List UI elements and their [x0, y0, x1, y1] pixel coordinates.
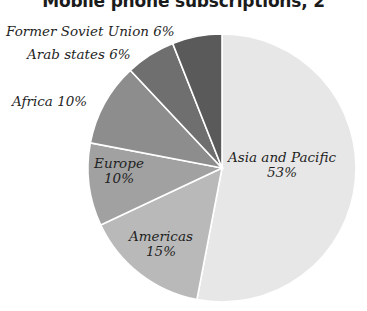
pie-label-former-soviet-union-value: 6%: [153, 23, 174, 39]
pie-label-arab-states-value: 6%: [109, 46, 130, 62]
pie-label-americas-name: Americas: [118, 229, 204, 244]
pie-label-arab-states: Arab states 6%: [27, 47, 131, 62]
pie-label-former-soviet-union: Former Soviet Union 6%: [6, 24, 175, 39]
pie-label-europe-value: 10%: [87, 171, 151, 186]
pie-label-asia-and-pacific-name: Asia and Pacific: [226, 150, 338, 165]
pie-label-africa-value: 10%: [57, 93, 87, 109]
pie-label-americas-value: 15%: [118, 244, 204, 259]
pie-label-europe: Europe 10%: [87, 156, 151, 185]
pie-label-arab-states-name: Arab states: [27, 46, 105, 62]
pie-label-asia-and-pacific: Asia and Pacific 53%: [226, 150, 338, 179]
pie-label-former-soviet-union-name: Former Soviet Union: [6, 23, 149, 39]
pie-label-africa-name: Africa: [12, 93, 53, 109]
pie-label-americas: Americas 15%: [118, 229, 204, 258]
pie-label-asia-and-pacific-value: 53%: [226, 165, 338, 180]
pie-label-europe-name: Europe: [87, 156, 151, 171]
pie-chart-figure: Mobile phone subscriptions, 2 Former Sov…: [0, 0, 367, 311]
pie-label-africa: Africa 10%: [12, 94, 87, 109]
